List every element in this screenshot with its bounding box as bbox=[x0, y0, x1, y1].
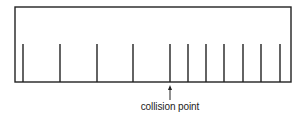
tick-marks bbox=[23, 44, 280, 82]
collision-diagram: collision point bbox=[0, 0, 304, 125]
arrow-head bbox=[168, 85, 172, 90]
collision-point-label: collision point bbox=[120, 101, 220, 113]
arrow-up-icon bbox=[168, 85, 172, 100]
box-outline bbox=[15, 7, 291, 82]
container-box bbox=[15, 7, 291, 82]
